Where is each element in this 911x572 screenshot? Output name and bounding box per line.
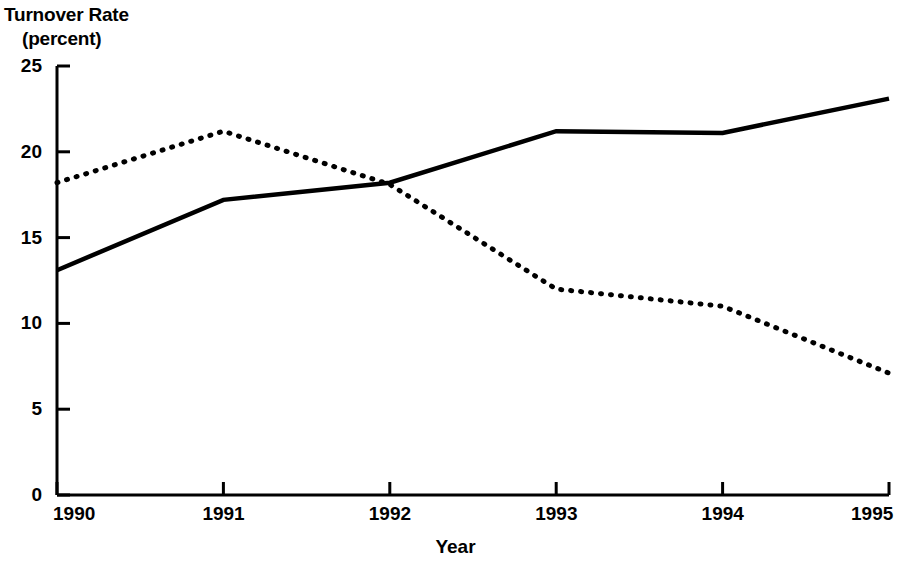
data-series-group bbox=[57, 99, 889, 374]
series-line-dotted-series bbox=[57, 131, 889, 373]
chart-axes bbox=[57, 66, 889, 495]
y-tick-label: 0 bbox=[0, 485, 42, 504]
y-tick-label: 10 bbox=[0, 313, 42, 332]
y-axis-ticks bbox=[57, 66, 70, 495]
y-tick-label: 25 bbox=[0, 56, 42, 75]
line-chart-plot bbox=[0, 0, 911, 572]
y-tick-label: 20 bbox=[0, 142, 42, 161]
y-tick-label: 15 bbox=[0, 228, 42, 247]
x-axis-ticks bbox=[57, 482, 889, 495]
x-tick-label: 1992 bbox=[369, 504, 411, 523]
x-tick-label: 1993 bbox=[535, 504, 577, 523]
y-tick-label: 5 bbox=[0, 399, 42, 418]
chart-container: Turnover Rate (percent) 0510152025 19901… bbox=[0, 0, 911, 572]
series-line-solid-series bbox=[57, 99, 889, 271]
x-tick-label: 1994 bbox=[702, 504, 744, 523]
x-tick-label: 1991 bbox=[202, 504, 244, 523]
x-tick-label: 1995 bbox=[851, 504, 893, 523]
x-axis-title: Year bbox=[0, 536, 911, 558]
x-tick-label: 1990 bbox=[53, 504, 95, 523]
